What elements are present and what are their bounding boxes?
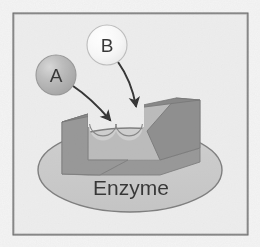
enzyme-diagram-figure: Enzyme A B xyxy=(0,0,260,247)
diagram-canvas: Enzyme A B xyxy=(0,0,260,247)
scan-grain-overlay xyxy=(0,0,260,247)
